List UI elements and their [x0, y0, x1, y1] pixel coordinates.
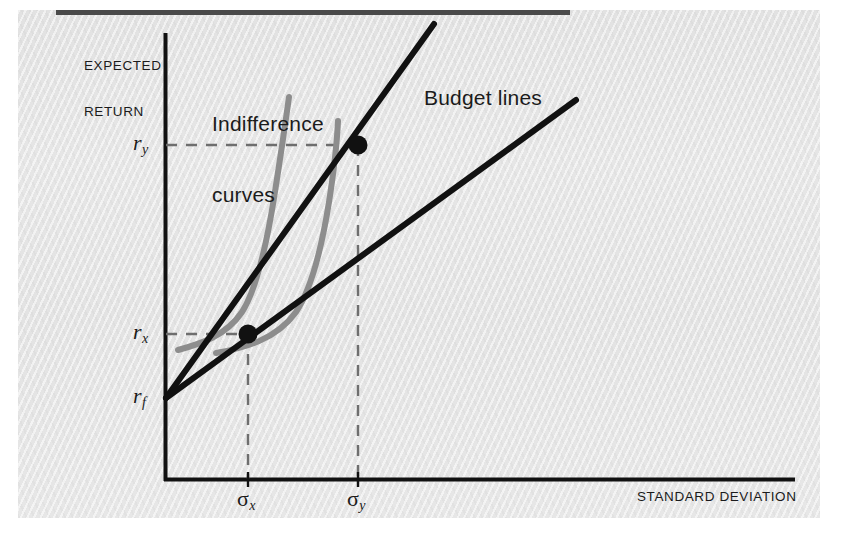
y-tick-label-r-x: rx — [133, 320, 148, 347]
y-axis-title: EXPECTED RETURN — [84, 28, 162, 149]
y-axis-title-line-2: RETURN — [84, 104, 162, 119]
x-tick-symbol-sigma-y: σ — [347, 486, 359, 511]
y-tick-subscript-r-y: y — [142, 142, 148, 157]
y-tick-label-r-y: ry — [133, 131, 148, 158]
x-tick-subscript-sigma-y: y — [359, 498, 365, 513]
x-axis-title: STANDARD DEVIATION — [637, 489, 797, 504]
y-tick-label-r-f: rf — [133, 384, 146, 411]
y-axis-title-line-1: EXPECTED — [84, 58, 162, 73]
x-tick-subscript-sigma-x: x — [249, 498, 255, 513]
x-tick-symbol-sigma-x: σ — [237, 486, 249, 511]
annotation-indifference-curves: Indifference curves — [212, 65, 324, 253]
optimal-portfolio-point-x — [239, 325, 258, 344]
y-tick-symbol-r-x: r — [133, 319, 142, 344]
y-tick-symbol-r-f: r — [133, 383, 142, 408]
optimal-portfolio-point-y — [349, 136, 368, 155]
annotation-indifference-line-1: Indifference — [212, 112, 324, 136]
y-tick-subscript-r-f: f — [142, 395, 146, 410]
figure-root: EXPECTED RETURN STANDARD DEVIATION Indif… — [0, 0, 865, 538]
y-tick-symbol-r-y: r — [133, 130, 142, 155]
x-tick-label-sigma-y: σy — [347, 487, 366, 514]
y-tick-subscript-r-x: x — [142, 331, 148, 346]
annotation-indifference-line-2: curves — [212, 183, 324, 207]
annotation-budget-lines: Budget lines — [424, 86, 542, 110]
x-tick-label-sigma-x: σx — [237, 487, 256, 514]
